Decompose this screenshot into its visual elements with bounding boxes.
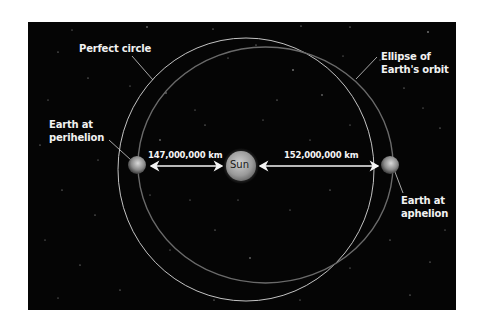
ellipse-leader [356,57,377,79]
sun-label: Sun [230,159,249,171]
aphelion-label-line1: Earth at [401,194,448,207]
ellipse-orbit [138,47,393,283]
ellipse-label: Ellipse of Earth's orbit [381,50,448,76]
earth-aphelion-icon [381,156,399,174]
ellipse-label-line2: Earth's orbit [381,63,448,76]
aphelion-distance: 152,000,000 km [284,150,358,160]
aphelion-label-line2: aphelion [401,207,448,220]
aphelion-label: Earth at aphelion [401,194,448,220]
perfect-circle-label: Perfect circle [79,42,151,55]
perfect-circle-leader [132,56,153,80]
perihelion-distance: 147,000,000 km [148,150,222,160]
perihelion-leader [109,140,131,160]
earth-perihelion-icon [128,156,146,174]
perihelion-label-line2: perihelion [49,131,104,144]
perihelion-label-line1: Earth at [49,118,104,131]
ellipse-label-line1: Ellipse of [381,50,448,63]
aphelion-leader [395,172,403,193]
perihelion-label: Earth at perihelion [49,118,104,144]
